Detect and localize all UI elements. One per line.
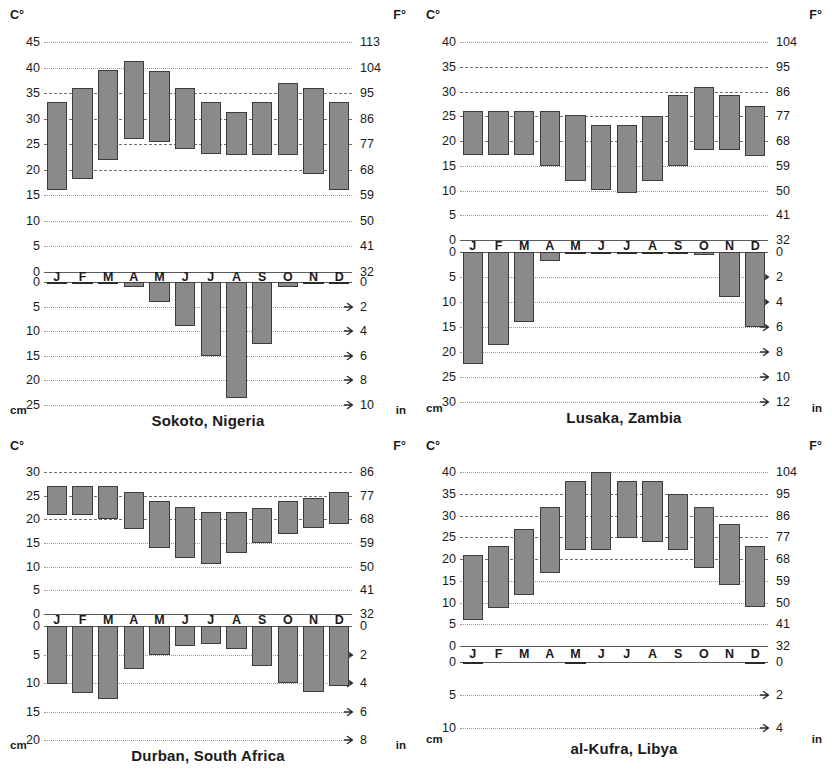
precip-tick-cm: 0 [416,246,456,259]
precipitation-bar [72,282,93,285]
precip-tick-cm: 5 [0,648,40,661]
precip-tick-cm: 5 [416,689,456,702]
precip-tick-in: 2 [776,271,826,284]
precip-tick-in: 6 [360,350,410,363]
precipitation-bar [642,252,663,255]
precip-tick-in: 6 [360,705,410,718]
precip-gridline-arrow-icon [760,398,771,407]
precip-tick-cm: 5 [0,300,40,313]
precip-tick-cm: 10 [416,722,456,735]
climograph-al-kufra: C°F°cmin40104359530862577206815591050541… [416,440,832,784]
climograph-sokoto: C°F°cmin45113401043595308625772068155910… [0,0,416,440]
precipitation-bar [463,252,484,364]
precip-tick-cm: 20 [416,346,456,359]
precip-gridline [44,712,352,713]
precip-tick-cm: 5 [416,271,456,284]
precip-tick-cm: 25 [416,371,456,384]
precipitation-bar [252,626,273,666]
precip-tick-in: 8 [360,734,410,747]
precipitation-bar [591,252,612,255]
precipitation-bar [719,252,740,297]
precipitation-bar [175,282,196,326]
precipitation-bar [514,252,535,322]
precip-gridline-arrow-icon [760,724,771,733]
precip-gridline-arrow-icon [344,401,355,410]
precip-tick-cm: 20 [0,374,40,387]
precipitation-bar [694,252,715,255]
precip-tick-in: 8 [360,374,410,387]
precip-gridline-arrow-icon [760,348,771,357]
precipitation-panel: 00521041562082510 [0,0,416,425]
precip-gridline [44,380,352,381]
precip-gridline [44,331,352,332]
precip-gridline [460,728,768,729]
precip-tick-in: 4 [360,325,410,338]
precip-tick-in: 4 [360,677,410,690]
precip-gridline [460,662,768,663]
precip-tick-in: 10 [776,371,826,384]
precip-tick-in: 0 [776,246,826,259]
precip-tick-in: 10 [360,399,410,412]
precip-tick-in: 4 [776,722,826,735]
precipitation-bar [488,252,509,345]
precip-tick-cm: 0 [0,276,40,289]
precip-tick-cm: 15 [0,705,40,718]
precipitation-bar [565,252,586,255]
precip-tick-in: 0 [360,276,410,289]
precip-gridline-arrow-icon [344,707,355,716]
precip-tick-cm: 30 [416,396,456,409]
precip-gridline-arrow-icon [344,736,355,745]
precip-tick-in: 2 [360,648,410,661]
precip-tick-in: 0 [776,656,826,669]
precipitation-bar [149,282,170,302]
precip-tick-cm: 10 [0,325,40,338]
precipitation-bar [617,252,638,255]
chart-title: Durban, South Africa [0,747,416,764]
precipitation-bar [175,626,196,646]
precipitation-bar [303,626,324,692]
precipitation-bar [47,282,68,285]
precip-tick-cm: 20 [0,734,40,747]
precipitation-bar [201,626,222,644]
precip-gridline [44,307,352,308]
precipitation-panel: 005210415620825103012 [416,0,832,422]
precipitation-bar [124,282,145,287]
precipitation-bar [201,282,222,356]
precipitation-bar [149,626,170,655]
precip-tick-in: 4 [776,296,826,309]
precip-tick-cm: 0 [0,620,40,633]
precip-tick-in: 8 [776,346,826,359]
precip-tick-cm: 10 [416,296,456,309]
precip-gridline-arrow-icon [344,327,355,336]
precip-gridline-arrow-icon [344,376,355,385]
precip-tick-in: 12 [776,396,826,409]
precipitation-bar [745,252,766,327]
precipitation-bar [278,282,299,287]
precip-gridline [44,405,352,406]
precip-tick-cm: 10 [0,677,40,690]
precipitation-bar [98,282,119,285]
chart-title: al-Kufra, Libya [416,740,832,757]
precip-gridline-arrow-icon [344,302,355,311]
precipitation-bar [72,626,93,693]
precipitation-bar [303,282,324,285]
precip-gridline-arrow-icon [760,373,771,382]
precip-tick-in: 6 [776,321,826,334]
chart-title: Lusaka, Zambia [416,409,832,426]
precip-gridline [44,740,352,741]
precip-gridline [460,377,768,378]
precip-gridline [460,352,768,353]
precipitation-bar [226,626,247,649]
precipitation-bar [745,662,766,665]
precipitation-bar [329,282,350,285]
climograph-durban: C°F°cmin30862577206815591050541032JFMAMJ… [0,440,416,784]
precip-gridline-arrow-icon [344,351,355,360]
precip-tick-in: 2 [360,300,410,313]
precipitation-panel: 0052104 [416,440,832,748]
precipitation-bar [252,282,273,344]
precip-tick-cm: 15 [416,321,456,334]
precip-gridline [460,695,768,696]
precipitation-bar [98,626,119,699]
precip-tick-cm: 25 [0,399,40,412]
precipitation-bar [565,662,586,665]
